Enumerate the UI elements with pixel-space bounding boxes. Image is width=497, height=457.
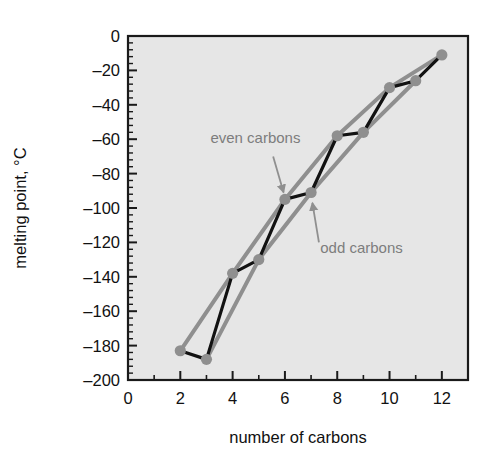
- x-tick-label: 10: [380, 389, 398, 407]
- x-tick-label: 0: [123, 389, 132, 407]
- data-point-marker: [227, 268, 238, 279]
- data-point-marker: [201, 354, 212, 365]
- data-point-marker: [410, 75, 421, 86]
- data-point-marker: [175, 345, 186, 356]
- y-axis-title: melting point, °C: [11, 147, 29, 268]
- data-point-marker: [384, 82, 395, 93]
- data-point-marker: [305, 187, 316, 198]
- x-tick-label: 2: [176, 389, 185, 407]
- y-tick-label: 0: [111, 27, 120, 45]
- data-point-marker: [279, 194, 290, 205]
- y-tick-label: –180: [83, 337, 120, 355]
- data-point-marker: [436, 49, 447, 60]
- y-tick-label: –100: [83, 199, 120, 217]
- y-tick-label: –160: [83, 302, 120, 320]
- y-tick-label: –140: [83, 268, 120, 286]
- annotation-label-odd-carbons: odd carbons: [320, 239, 403, 256]
- y-tick-label: –200: [83, 371, 120, 389]
- x-axis-title: number of carbons: [229, 428, 367, 446]
- x-tick-label: 8: [333, 389, 342, 407]
- data-point-marker: [358, 127, 369, 138]
- x-tick-label: 4: [228, 389, 237, 407]
- x-tick-label: 12: [433, 389, 451, 407]
- y-tick-label: –120: [83, 233, 120, 251]
- chart-figure: 024681012 0–20–40–60–80–100–120–140–160–…: [0, 0, 497, 457]
- data-point-marker: [253, 254, 264, 265]
- y-tick-label: –60: [92, 130, 120, 148]
- y-tick-label: –40: [92, 96, 120, 114]
- melting-point-vs-carbons-chart: 024681012 0–20–40–60–80–100–120–140–160–…: [0, 0, 497, 457]
- annotation-label-even-carbons: even carbons: [210, 129, 300, 146]
- data-point-marker: [332, 130, 343, 141]
- x-tick-label: 6: [280, 389, 289, 407]
- y-tick-label: –20: [92, 61, 120, 79]
- y-tick-label: –80: [92, 165, 120, 183]
